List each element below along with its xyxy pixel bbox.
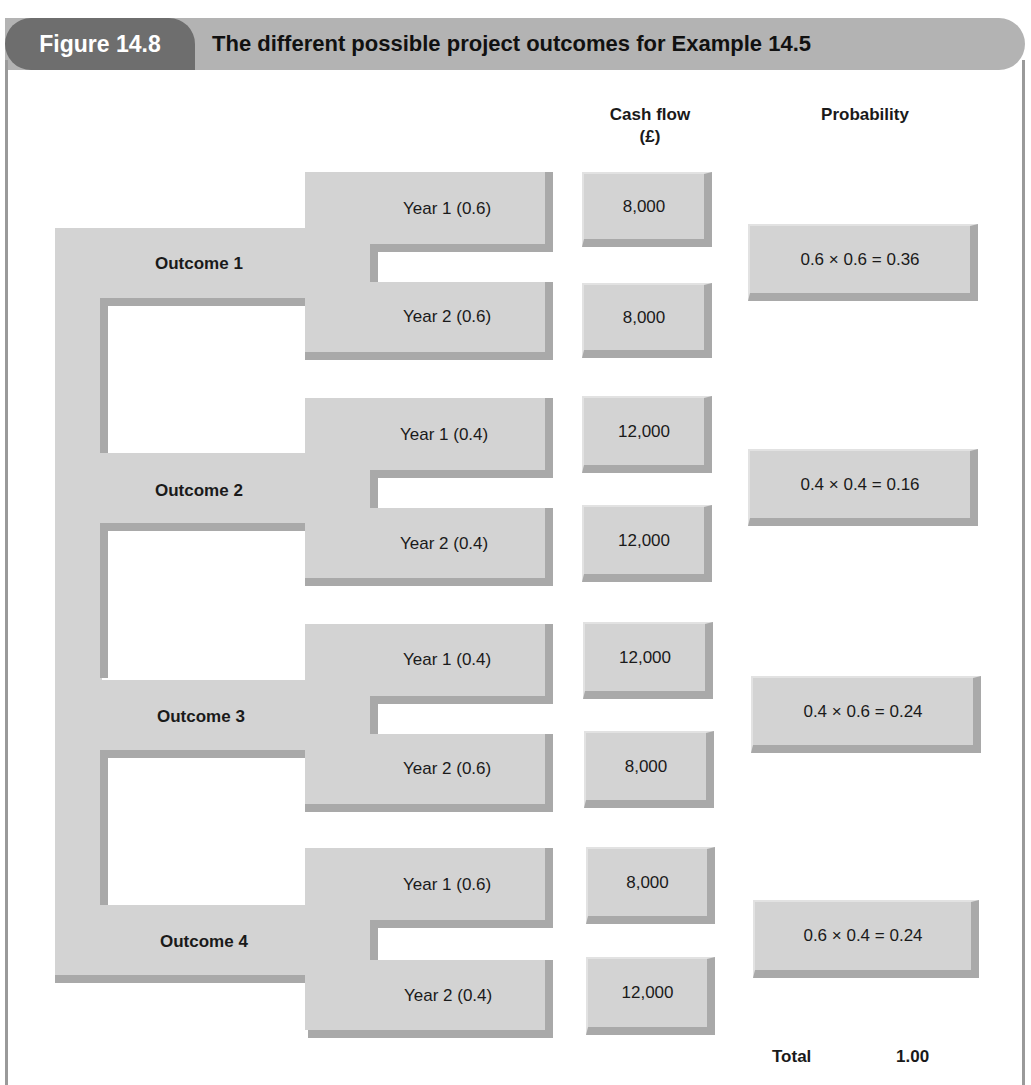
branch-connector	[305, 920, 378, 960]
cash-flow-box: 8,000	[582, 283, 712, 358]
branch-shadow	[545, 960, 553, 1038]
connector-shadow	[370, 696, 378, 734]
outcome-label: Outcome 2	[155, 481, 243, 501]
connector-shadow	[370, 920, 378, 960]
branch-shadow	[545, 282, 553, 360]
year-1-label: Year 1 (0.4)	[400, 425, 488, 445]
year-2-label: Year 2 (0.6)	[403, 307, 491, 327]
outcome-label: Outcome 1	[155, 254, 243, 274]
spine-shadow	[100, 298, 108, 453]
branch-shadow	[378, 244, 553, 252]
outcome-label: Outcome 4	[160, 932, 248, 952]
spine-shadow	[100, 748, 108, 905]
connector-shadow	[370, 470, 378, 508]
cash-flow-unit: (£)	[575, 126, 725, 148]
year-2-label: Year 2 (0.6)	[403, 759, 491, 779]
figure-label: Figure 14.8	[5, 18, 195, 70]
cash-flow-title: Cash flow	[575, 104, 725, 126]
branch-shadow	[305, 804, 553, 812]
year-2-label: Year 2 (0.4)	[400, 534, 488, 554]
year-2-label: Year 2 (0.4)	[404, 986, 492, 1006]
year-1-label: Year 1 (0.6)	[403, 875, 491, 895]
branch-shadow	[545, 398, 553, 478]
frame-border-right	[1022, 60, 1025, 1085]
cash-flow-box: 12,000	[582, 396, 712, 473]
outcome-bar-shadow	[100, 523, 310, 531]
outcome-bar-shadow	[100, 750, 310, 758]
spine-shadow	[100, 523, 108, 678]
outcome-label: Outcome 3	[157, 707, 245, 727]
branch-shadow	[378, 920, 553, 928]
outcome-bar-shadow	[100, 298, 310, 306]
cash-flow-box: 8,000	[582, 172, 712, 247]
probability-box: 0.6 × 0.4 = 0.24	[753, 900, 979, 978]
branch-shadow	[545, 172, 553, 252]
branch-shadow	[545, 508, 553, 586]
probability-box: 0.6 × 0.6 = 0.36	[748, 224, 978, 301]
column-header-cash-flow: Cash flow (£)	[575, 104, 725, 148]
cash-flow-box: 8,000	[586, 847, 715, 924]
branch-connector	[305, 244, 378, 282]
cash-flow-box: 12,000	[586, 957, 715, 1035]
branch-shadow	[378, 470, 553, 478]
total-label: Total	[772, 1047, 811, 1067]
cash-flow-box: 12,000	[583, 622, 713, 699]
branch-shadow	[378, 696, 553, 704]
year-1-label: Year 1 (0.4)	[403, 650, 491, 670]
column-header-probability: Probability	[770, 104, 960, 126]
branch-shadow	[308, 1030, 553, 1038]
tree-spine	[55, 228, 102, 975]
branch-connector	[305, 470, 378, 508]
connector-shadow	[370, 244, 378, 282]
branch-shadow	[545, 734, 553, 812]
probability-box: 0.4 × 0.4 = 0.16	[748, 449, 978, 526]
cash-flow-box: 8,000	[584, 731, 714, 808]
figure-title: The different possible project outcomes …	[212, 18, 811, 70]
frame-border-left	[5, 60, 8, 1085]
branch-shadow	[545, 848, 553, 928]
year-1-label: Year 1 (0.6)	[403, 199, 491, 219]
branch-shadow	[545, 624, 553, 704]
total-value: 1.00	[896, 1047, 929, 1067]
probability-box: 0.4 × 0.6 = 0.24	[751, 676, 981, 753]
spine-bottom-shadow	[55, 975, 310, 983]
cash-flow-box: 12,000	[582, 505, 712, 582]
branch-shadow	[305, 578, 553, 586]
branch-shadow	[305, 352, 553, 360]
branch-connector	[305, 696, 378, 734]
